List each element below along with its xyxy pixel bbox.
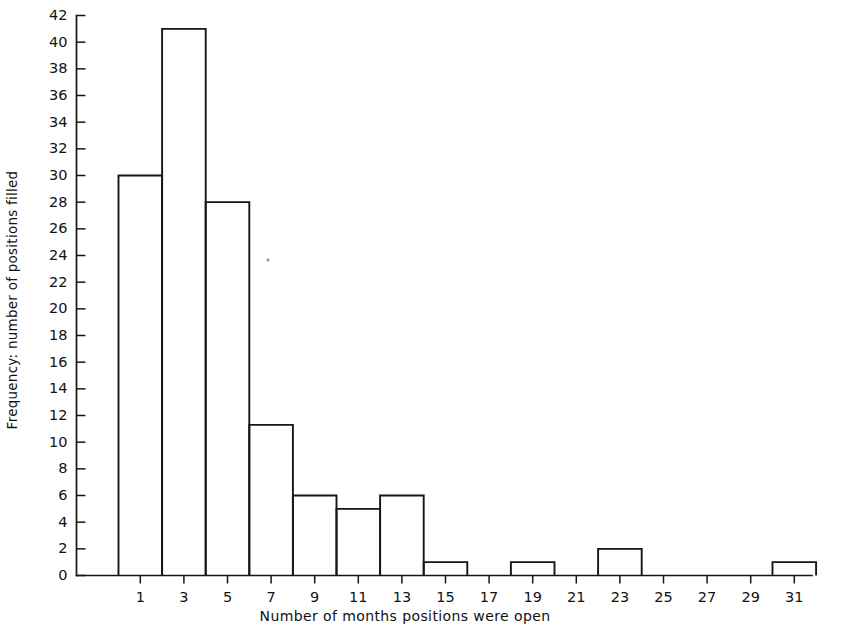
histogram-bar — [337, 509, 381, 576]
x-tick-label: 3 — [179, 589, 188, 605]
plot-area: 024681012141618202224262830323436384042 … — [0, 0, 842, 641]
x-tick-label: 7 — [266, 589, 275, 605]
y-tick-label: 42 — [49, 7, 67, 23]
histogram-bar — [598, 549, 642, 576]
y-tick-label: 36 — [49, 87, 67, 103]
histogram-bar — [249, 425, 293, 576]
x-tick-label: 29 — [741, 589, 759, 605]
y-tick-label: 38 — [49, 60, 67, 76]
y-tick-label: 40 — [49, 34, 67, 50]
x-tick-label: 25 — [654, 589, 672, 605]
x-tick-label: 31 — [785, 589, 803, 605]
y-tick-label: 12 — [49, 407, 67, 423]
x-tick-label: 21 — [567, 589, 585, 605]
y-tick-label: 16 — [49, 354, 67, 370]
x-tick-label: 15 — [436, 589, 454, 605]
y-tick-label: 8 — [58, 460, 67, 476]
y-tick-label: 24 — [49, 247, 67, 263]
x-tick-label: 1 — [136, 589, 145, 605]
y-axis-ticks: 024681012141618202224262830323436384042 — [49, 7, 85, 583]
x-tick-label: 19 — [523, 589, 541, 605]
y-tick-label: 4 — [58, 514, 67, 530]
y-tick-label: 22 — [49, 274, 67, 290]
x-tick-label: 11 — [349, 589, 367, 605]
histogram-bar — [206, 202, 250, 575]
histogram-bar — [293, 496, 337, 576]
y-tick-label: 20 — [49, 300, 67, 316]
histogram-bar — [773, 562, 817, 575]
scan-speck-icon — [266, 258, 269, 261]
y-tick-label: 0 — [58, 567, 67, 583]
y-tick-label: 10 — [49, 434, 67, 450]
y-tick-label: 34 — [49, 114, 67, 130]
x-tick-label: 27 — [698, 589, 716, 605]
y-tick-label: 26 — [49, 220, 67, 236]
histogram-bar — [162, 29, 206, 576]
x-axis-ticks: 135791113151719212325272931 — [136, 576, 804, 605]
x-tick-label: 9 — [310, 589, 319, 605]
histogram-bar — [424, 562, 468, 575]
x-tick-label: 23 — [611, 589, 629, 605]
x-tick-label: 13 — [393, 589, 411, 605]
histogram-bar — [380, 496, 424, 576]
histogram-bars — [119, 29, 817, 576]
y-tick-label: 32 — [49, 140, 67, 156]
y-tick-label: 30 — [49, 167, 67, 183]
histogram-figure: Frequency: number of positions filled Nu… — [0, 0, 842, 641]
y-tick-label: 18 — [49, 327, 67, 343]
x-tick-label: 17 — [480, 589, 498, 605]
y-tick-label: 6 — [58, 487, 67, 503]
axis-lines — [77, 16, 813, 576]
histogram-bar — [119, 176, 163, 576]
x-tick-label: 5 — [223, 589, 232, 605]
y-tick-label: 14 — [49, 380, 67, 396]
y-tick-label: 2 — [58, 540, 67, 556]
y-tick-label: 28 — [49, 194, 67, 210]
histogram-bar — [511, 562, 555, 575]
